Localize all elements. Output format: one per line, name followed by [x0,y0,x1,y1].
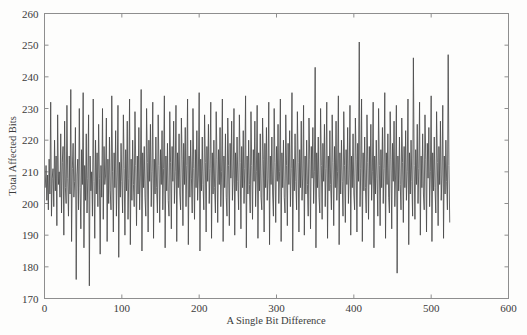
y-tick-label: 230 [22,103,39,115]
x-axis-label: A Single Bit Difference [226,315,326,326]
y-tick-label: 170 [22,293,39,305]
y-tick-label: 190 [22,229,39,241]
x-tick-label: 300 [268,302,285,314]
y-tick-label: 180 [22,261,39,273]
y-tick-label: 240 [22,71,39,83]
y-tick-label: 210 [22,166,39,178]
y-tick-label: 260 [22,8,39,20]
x-axis-tick-labels: 0100200300400500600 [42,302,518,314]
x-tick-label: 200 [191,302,208,314]
y-tick-label: 250 [22,39,39,51]
y-axis-tick-labels: 170180190200210220230240250260 [22,8,39,305]
y-tick-label: 220 [22,134,39,146]
chart-figure: 170180190200210220230240250260 010020030… [0,0,527,335]
x-tick-label: 400 [346,302,363,314]
y-axis-label: Total Affected Bits [7,116,18,196]
x-tick-label: 100 [114,302,131,314]
x-tick-label: 600 [500,302,517,314]
x-tick-label: 0 [42,302,48,314]
y-tick-label: 200 [22,198,39,210]
x-tick-label: 500 [423,302,440,314]
line-chart: 170180190200210220230240250260 010020030… [0,0,527,335]
data-series-total-affected-bits [45,42,449,286]
